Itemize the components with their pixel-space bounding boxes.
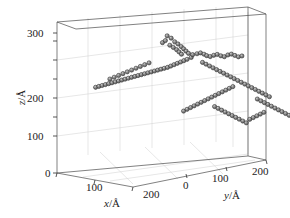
- scatter-point: [262, 110, 266, 114]
- x-tick-label-100: 100: [86, 182, 103, 193]
- scatter-point: [116, 73, 120, 77]
- scatter-points-group: [94, 34, 290, 125]
- scatter-point: [165, 34, 169, 38]
- scatter-point: [138, 64, 142, 68]
- scatter-point: [240, 54, 244, 58]
- scatter-point: [185, 57, 189, 61]
- scatter-point: [134, 66, 138, 70]
- x-axis-unit-text: /Å: [109, 197, 120, 209]
- scatter-point: [267, 95, 271, 99]
- z-tick-label-0: 0: [45, 168, 51, 179]
- scatter-point: [244, 121, 248, 125]
- z-axis-title-text: z: [15, 101, 27, 105]
- scatter-point: [179, 52, 183, 56]
- scatter-point: [130, 68, 134, 72]
- scatter-point: [112, 75, 116, 79]
- z-axis-unit-text: /Å: [15, 90, 27, 101]
- scatter-point: [287, 113, 290, 117]
- figure-3d-scatter-plot: 300 200 100 0 z/Å 100 200 x/Å 0 100 200 …: [0, 0, 290, 218]
- y-axis-title: y/Å: [224, 190, 240, 201]
- scatter-point: [121, 72, 125, 76]
- y-axis-unit-text: /Å: [229, 189, 240, 201]
- grid-lines: [57, 7, 255, 184]
- y-tick-label-0: 0: [183, 180, 189, 191]
- x-axis-title: x/Å: [104, 198, 120, 209]
- plot-box-frame: [57, 7, 266, 187]
- scatter-point: [143, 63, 147, 67]
- z-tick-label-100: 100: [27, 131, 44, 142]
- y-tick-label-200: 200: [252, 166, 269, 177]
- y-tick-label-100: 100: [212, 173, 229, 184]
- z-tick-label-300: 300: [27, 28, 44, 39]
- scatter-point: [169, 36, 173, 40]
- scatter-point: [125, 70, 129, 74]
- scatter-point: [231, 85, 235, 89]
- scatter-point: [186, 51, 190, 55]
- scatter-point: [191, 53, 195, 57]
- z-axis-title: z/Å: [16, 90, 27, 105]
- scatter-point: [147, 61, 151, 65]
- z-tick-label-200: 200: [27, 93, 44, 104]
- scatter-point: [163, 38, 167, 42]
- x-tick-label-200: 200: [143, 189, 160, 200]
